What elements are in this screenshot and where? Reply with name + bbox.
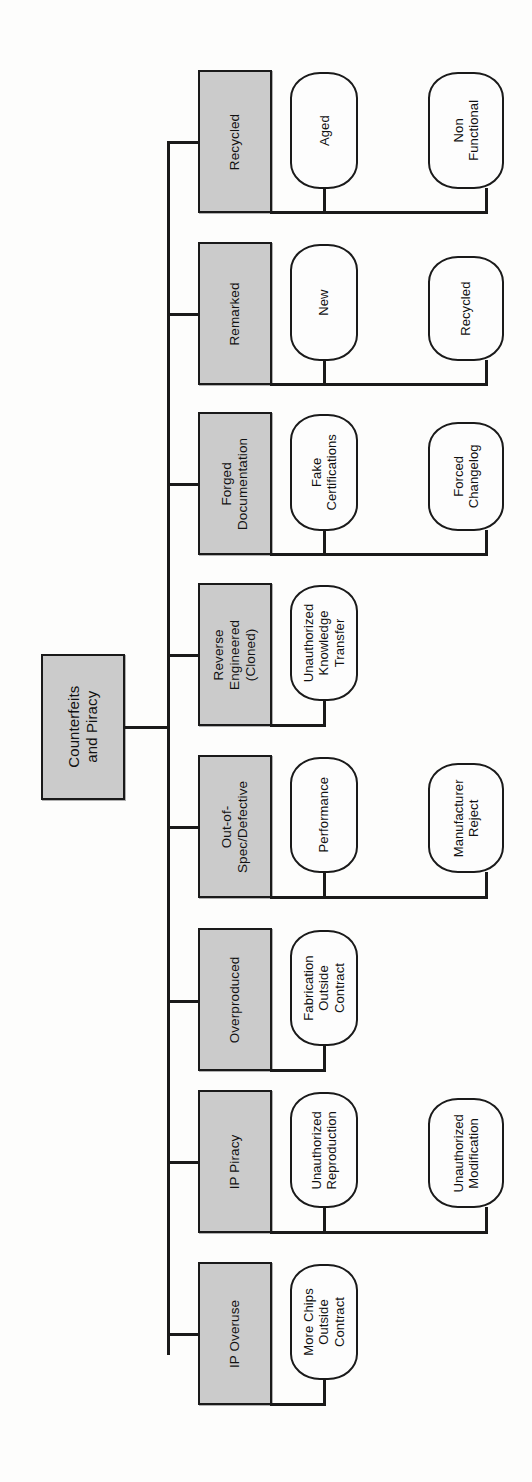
leaf-node-recycled[interactable]: Recycled [428,256,504,361]
leaf-node-label: Aged [316,115,331,146]
leaf-bus-forged-documentation [270,553,488,556]
leaf-stem-manufacturer-reject [485,872,488,898]
root-node-label: Counterfeits and Piracy [65,686,100,768]
leaf-bus-recycled [270,211,488,214]
leaf-node-non-functional[interactable]: Non Functional [428,72,504,189]
leaf-stem-aged [323,188,326,214]
leaf-node-unauthorized-modification[interactable]: Unauthorized Modification [428,1098,504,1208]
branch-node-label: Recycled [227,113,243,169]
root-node-counterfeits-and-piracy[interactable]: Counterfeits and Piracy [41,654,125,800]
leaf-bus-out-of-spec-defective [270,896,488,899]
leaf-node-label: Fake Certifications [309,434,340,511]
leaf-bus-reverse-engineered [270,724,326,727]
branch-connector-out-of-spec-defective [167,826,201,829]
leaf-node-label: Fabrication Outside Contract [301,955,347,1020]
branch-node-recycled[interactable]: Recycled [198,70,272,213]
diagram-canvas: Counterfeits and Piracy Recycled Aged No… [0,0,532,1482]
leaf-node-unauthorized-knowledge-transfer[interactable]: Unauthorized Knowledge Transfer [290,585,358,701]
branch-connector-ip-overuse [167,1333,201,1336]
root-connector [125,726,170,729]
leaf-stem-performance [323,872,326,898]
tree-spine [167,141,170,1355]
branch-node-remarked[interactable]: Remarked [198,242,272,385]
branch-node-forged-documentation[interactable]: Forged Documentation [198,412,272,555]
branch-node-ip-piracy[interactable]: IP Piracy [198,1090,272,1233]
leaf-node-aged[interactable]: Aged [290,72,358,189]
leaf-node-forced-changelog[interactable]: Forced Changelog [428,422,504,531]
leaf-node-label: Unauthorized Modification [451,1114,482,1193]
leaf-bus-ip-overuse [270,1403,326,1406]
branch-node-ip-overuse[interactable]: IP Overuse [198,1262,272,1405]
leaf-node-fabrication-outside-contract[interactable]: Fabrication Outside Contract [290,930,358,1046]
leaf-stem-fake-certifications [323,530,326,556]
leaf-node-performance[interactable]: Performance [290,757,358,873]
branch-node-label: Remarked [227,282,243,345]
branch-node-reverse-engineered[interactable]: Reverse Engineered (Cloned) [198,583,272,726]
leaf-node-label: More Chips Outside Contract [301,1288,347,1355]
leaf-bus-ip-piracy [270,1231,488,1234]
leaf-stem-fabrication-outside-contract [323,1045,326,1071]
branch-node-label: Forged Documentation [219,437,251,529]
branch-node-label: IP Piracy [227,1134,243,1189]
branch-node-label: Overproduced [227,956,243,1043]
leaf-node-label: Unauthorized Reproduction [309,1111,340,1190]
leaf-node-label: Unauthorized Knowledge Transfer [301,604,347,683]
leaf-stem-unauthorized-modification [485,1207,488,1233]
branch-node-label: Reverse Engineered (Cloned) [211,619,259,689]
leaf-node-label: Performance [316,777,331,853]
branch-connector-forged-documentation [167,483,201,486]
leaf-bus-remarked [270,383,488,386]
leaf-stem-unauthorized-reproduction [323,1207,326,1233]
leaf-node-fake-certifications[interactable]: Fake Certifications [290,414,358,531]
branch-connector-remarked [167,313,201,316]
leaf-stem-more-chips-outside-contract [323,1379,326,1405]
leaf-node-more-chips-outside-contract[interactable]: More Chips Outside Contract [290,1264,358,1380]
leaf-stem-non-functional [485,188,488,214]
branch-connector-ip-piracy [167,1161,201,1164]
branch-node-label: Out-of- Spec/Defective [219,780,251,872]
leaf-node-manufacturer-reject[interactable]: Manufacturer Reject [428,763,504,873]
leaf-bus-overproduced [270,1069,326,1072]
leaf-node-label: New [316,289,331,315]
branch-connector-recycled [167,141,201,144]
leaf-stem-unauthorized-knowledge-transfer [323,700,326,726]
leaf-node-label: Forced Changelog [451,445,482,509]
leaf-stem-forced-changelog [485,530,488,556]
branch-node-overproduced[interactable]: Overproduced [198,928,272,1071]
leaf-node-new[interactable]: New [290,244,358,361]
leaf-stem-new [323,360,326,386]
leaf-node-unauthorized-reproduction[interactable]: Unauthorized Reproduction [290,1092,358,1208]
leaf-node-label: Non Functional [451,100,482,161]
leaf-node-label: Recycled [458,281,473,335]
leaf-stem-recycled [485,360,488,386]
branch-node-out-of-spec-defective[interactable]: Out-of- Spec/Defective [198,755,272,898]
branch-node-label: IP Overuse [227,1299,243,1367]
leaf-node-label: Manufacturer Reject [451,779,482,857]
branch-connector-overproduced [167,1000,201,1003]
branch-connector-reverse-engineered [167,654,201,657]
